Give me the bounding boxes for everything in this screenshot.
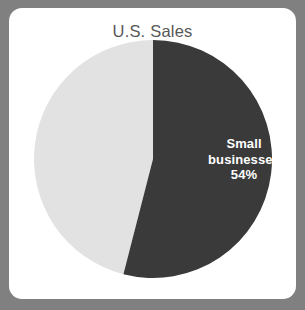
pie-slice-label-small-businesses: Small businesses 54% (184, 136, 296, 183)
chart-card: U.S. Sales Small businesses 54% (9, 8, 296, 299)
pie-slice-label-line1: Small (184, 136, 296, 152)
pie-chart: Small businesses 54% (34, 40, 272, 278)
pie-slice-label-line2: businesses (184, 152, 296, 168)
pie-slice-label-value: 54% (184, 167, 296, 183)
chart-title: U.S. Sales (9, 22, 296, 41)
